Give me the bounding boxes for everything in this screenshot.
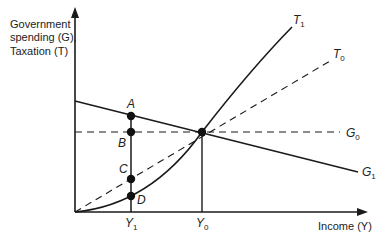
y0-tick-label: Y0 [196, 217, 208, 234]
t1-curve [75, 27, 292, 212]
g1-label: G1 [362, 166, 376, 183]
point-b-label: B [118, 137, 126, 150]
point-c-label: C [119, 163, 128, 176]
y1-tick-label: Y1 [125, 217, 137, 234]
point-a-label: A [127, 98, 135, 111]
x-axis-arrow-icon [357, 208, 368, 216]
equilibrium-marker [198, 128, 206, 136]
point-a-marker [127, 112, 135, 120]
y-axis-label-line2: spending (G), [10, 31, 77, 44]
x-axis-label: Income (Y) [318, 220, 372, 233]
point-d-marker [127, 192, 135, 200]
t1-label: T1 [293, 14, 305, 31]
y-axis-label-line3: Taxation (T) [10, 45, 68, 58]
point-b-marker [127, 128, 135, 136]
tax-spending-diagram: Government spending (G), Taxation (T) In… [0, 0, 390, 250]
g0-label: G0 [346, 127, 360, 144]
y-axis-label-line1: Government [10, 18, 71, 31]
y-axis-arrow-icon [71, 7, 79, 18]
t0-label: T0 [333, 48, 345, 65]
point-c-marker [127, 175, 135, 183]
point-d-label: D [137, 194, 146, 207]
